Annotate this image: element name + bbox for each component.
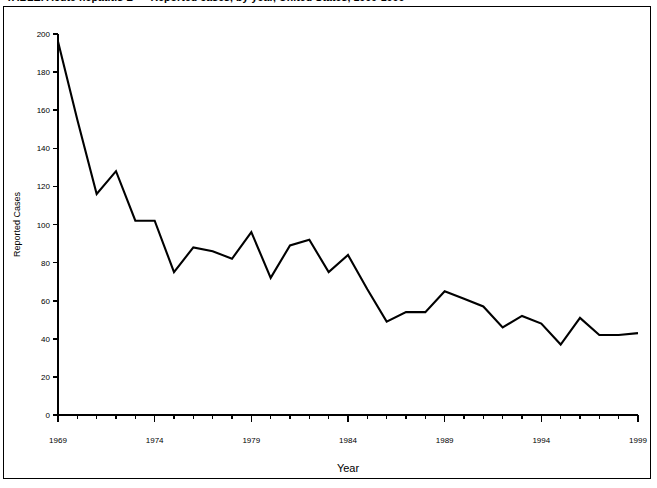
- y-tick-label: 200: [37, 30, 51, 39]
- x-tick-label: 1969: [49, 436, 67, 445]
- figure-page: TABLE. Acute hepatitis B — Reported case…: [0, 0, 657, 488]
- line-chart: 0204060801001201401601802001969197419791…: [4, 7, 649, 477]
- figure-frame: 0204060801001201401601802001969197419791…: [3, 6, 651, 479]
- x-tick-label: 1989: [436, 436, 454, 445]
- x-tick-label: 1974: [146, 436, 164, 445]
- y-tick-label: 160: [37, 106, 51, 115]
- y-tick-label: 40: [41, 335, 50, 344]
- y-tick-label: 80: [41, 259, 50, 268]
- x-tick-label: 1994: [532, 436, 550, 445]
- y-tick-label: 0: [46, 411, 51, 420]
- y-tick-label: 140: [37, 144, 51, 153]
- y-axis-title: Reported Cases: [12, 191, 22, 257]
- y-tick-label: 100: [37, 221, 51, 230]
- y-tick-label: 180: [37, 68, 51, 77]
- y-tick-label: 20: [41, 373, 50, 382]
- y-tick-label: 120: [37, 182, 51, 191]
- figure-title: TABLE. Acute hepatitis B — Reported case…: [6, 0, 646, 3]
- data-series-line: [58, 42, 638, 345]
- x-axis-title: Year: [337, 462, 360, 474]
- y-tick-label: 60: [41, 297, 50, 306]
- x-tick-label: 1984: [339, 436, 357, 445]
- x-tick-label: 1979: [242, 436, 260, 445]
- x-tick-label: 1999: [629, 436, 647, 445]
